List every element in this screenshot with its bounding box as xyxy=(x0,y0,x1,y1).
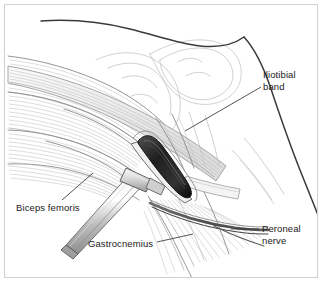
anatomy-illustration-canvas: Iliotibial band Biceps femoris Gastrocne… xyxy=(0,0,328,293)
label-iliotibial-band-line1: Iliotibial xyxy=(263,69,296,80)
label-peroneal-nerve-line2: nerve xyxy=(262,235,286,246)
label-iliotibial-band-line2: band xyxy=(263,81,285,92)
label-peroneal-nerve-line1: Peroneal xyxy=(262,223,301,234)
label-biceps-femoris: Biceps femoris xyxy=(16,202,80,213)
label-gastrocnemius-line1: Gastrocnemius xyxy=(88,238,153,249)
label-gastrocnemius: Gastrocnemius xyxy=(88,238,153,249)
illustration-figure: Iliotibial band Biceps femoris Gastrocne… xyxy=(0,0,328,293)
label-biceps-femoris-line1: Biceps femoris xyxy=(16,202,80,213)
